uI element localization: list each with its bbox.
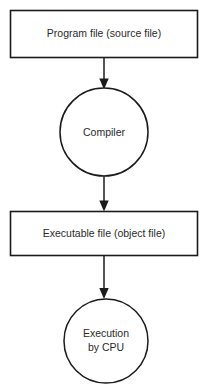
- node-compiler[interactable]: Compiler: [60, 88, 148, 176]
- node-object-file[interactable]: Executable file (object file): [11, 212, 198, 256]
- diagram-canvas: Program file (source file) Compiler Exec…: [0, 0, 210, 388]
- edge-compiler-to-object: [99, 176, 108, 212]
- compiler-label: Compiler: [83, 126, 126, 138]
- edge-source-to-compiler: [99, 58, 108, 90]
- node-execution[interactable]: Execution by CPU: [64, 299, 148, 383]
- execution-label-line1: Execution: [83, 327, 129, 339]
- object-file-label: Executable file (object file): [43, 227, 166, 239]
- edge-object-to-execution: [99, 256, 108, 300]
- edge-compiler-to-object-arrowhead: [99, 201, 108, 212]
- source-file-label: Program file (source file): [47, 27, 161, 39]
- flowchart: Program file (source file) Compiler Exec…: [0, 0, 210, 388]
- execution-label-line2: by CPU: [88, 341, 124, 353]
- node-source-file[interactable]: Program file (source file): [11, 11, 198, 58]
- edge-object-to-execution-arrowhead: [99, 288, 108, 299]
